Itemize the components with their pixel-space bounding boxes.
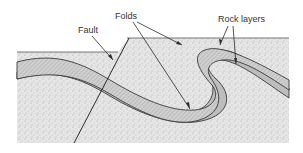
rock-layers-label: Rock layers	[218, 14, 265, 24]
fault-label: Fault	[78, 25, 98, 35]
rock-block	[17, 38, 289, 143]
folds-label: Folds	[115, 11, 137, 21]
